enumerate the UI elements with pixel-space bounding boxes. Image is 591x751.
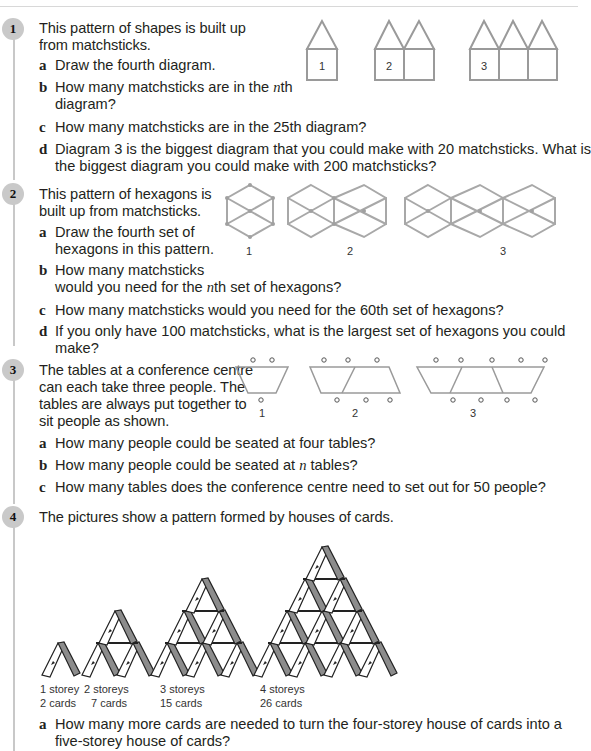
text-line: Diagram 3 is the biggest diagram that yo… — [55, 141, 591, 158]
caption-4-storeys: 4 storeys 26 cards — [260, 682, 305, 710]
page-top-rule — [0, 6, 578, 7]
part-label: a — [39, 435, 47, 452]
text-span: th set of hexagons? — [214, 279, 341, 295]
part-text: If you only have 100 matchsticks, what i… — [55, 323, 565, 357]
figure-label: 2 — [352, 407, 358, 419]
caption-storeys: 1 storey — [40, 682, 79, 696]
part-text: How many people could be seated at n tab… — [55, 457, 358, 474]
variable-n: n — [299, 457, 306, 473]
text-line: the biggest diagram you could make with … — [55, 158, 591, 175]
part-label: c — [39, 302, 46, 319]
question-1-number: 1 — [2, 18, 24, 40]
question-3-number: 3 — [2, 359, 24, 381]
question-2-number: 2 — [2, 183, 24, 205]
question-4-number: 4 — [2, 506, 24, 528]
text-span: tables? — [307, 457, 358, 473]
part-label: c — [39, 119, 46, 136]
text-span: diagram? — [55, 96, 116, 112]
question-2-intro: This pattern of hexagons is built up fro… — [39, 186, 212, 220]
houses-of-cards-figure — [38, 525, 388, 680]
figure-label: 3 — [481, 60, 487, 72]
text-span: How many matchsticks are in the — [55, 79, 273, 95]
part-label: d — [39, 323, 47, 340]
part-label: a — [39, 716, 47, 733]
matchstick-hexagons-figure: 1 2 3 — [222, 180, 578, 260]
part-label: b — [39, 457, 47, 474]
caption-2-storeys: 2 storeys 7 cards — [84, 682, 129, 710]
text-line: How many matchsticks — [55, 262, 341, 279]
text-line: How many more cards are needed to turn t… — [55, 716, 562, 733]
part-label: b — [39, 79, 47, 96]
matchstick-houses-figure: 1 2 3 — [300, 15, 580, 90]
part-text: How many more cards are needed to turn t… — [55, 716, 562, 750]
part-text: Draw the fourth set of hexagons in this … — [55, 224, 214, 258]
part-text: Diagram 3 is the biggest diagram that yo… — [55, 141, 591, 175]
caption-1-storey: 1 storey 2 cards — [40, 682, 79, 710]
part-text: How many matchsticks would you need for … — [55, 302, 504, 319]
intro-line: sit people as shown. — [39, 413, 253, 430]
text-span: th — [280, 79, 292, 95]
figure-label: 1 — [259, 407, 265, 419]
question-1-intro: This pattern of shapes is built up from … — [39, 20, 246, 54]
intro-line: tables are always put together to — [39, 396, 253, 413]
figure-label: 1 — [246, 245, 252, 257]
part-text: How many matchsticks are in the 25th dia… — [55, 119, 366, 136]
caption-cards: 26 cards — [260, 696, 305, 710]
text-line: Draw the fourth set of — [55, 224, 214, 241]
caption-3-storeys: 3 storeys 15 cards — [160, 682, 205, 710]
figure-label: 1 — [319, 60, 325, 72]
text-line: If you only have 100 matchsticks, what i… — [55, 323, 565, 340]
text-span: would you need for the — [55, 279, 207, 295]
part-label: d — [39, 141, 47, 158]
part-label: a — [39, 57, 47, 74]
part-text: How many people could be seated at four … — [55, 435, 375, 452]
part-text: How many matchsticks would you need for … — [55, 262, 341, 296]
caption-storeys: 4 storeys — [260, 682, 305, 696]
part-text: How many matchsticks are in the nth diag… — [55, 79, 293, 113]
part-text: Draw the fourth diagram. — [55, 57, 216, 74]
question-3-rule — [13, 372, 15, 504]
intro-line: The tables at a conference centre — [39, 362, 253, 379]
text-line: hexagons in this pattern. — [55, 241, 214, 258]
figure-label: 3 — [500, 245, 506, 257]
caption-cards: 15 cards — [160, 696, 205, 710]
caption-storeys: 2 storeys — [84, 682, 129, 696]
figure-label: 2 — [386, 60, 392, 72]
text-span: How many people could be seated at — [55, 457, 299, 473]
caption-storeys: 3 storeys — [160, 682, 205, 696]
figure-label: 3 — [470, 407, 476, 419]
conference-tables-figure: 1 2 3 — [236, 355, 578, 425]
text-line: five-storey house of cards? — [55, 733, 562, 750]
figure-label: 2 — [347, 245, 353, 257]
part-label: c — [39, 479, 46, 496]
question-2-rule — [13, 196, 15, 346]
question-4-intro: The pictures show a pattern formed by ho… — [39, 509, 394, 526]
caption-cards: 2 cards — [40, 696, 79, 710]
intro-line: This pattern of hexagons is — [39, 186, 212, 203]
question-1-rule — [13, 32, 15, 180]
part-text: How many tables does the conference cent… — [55, 479, 546, 496]
part-label: b — [39, 262, 47, 279]
text-line: would you need for the nth set of hexago… — [55, 279, 341, 296]
variable-n: n — [207, 279, 214, 295]
caption-cards: 7 cards — [84, 696, 129, 710]
question-4-rule — [13, 520, 15, 751]
intro-line: can each take three people. The — [39, 379, 253, 396]
intro-line: from matchsticks. — [39, 37, 246, 54]
intro-line: built up from matchsticks. — [39, 203, 212, 220]
part-label: a — [39, 224, 47, 241]
intro-line: This pattern of shapes is built up — [39, 20, 246, 37]
question-3-intro: The tables at a conference centre can ea… — [39, 362, 253, 430]
